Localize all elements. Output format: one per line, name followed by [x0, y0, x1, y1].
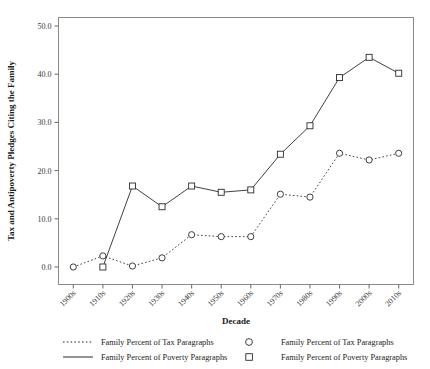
y-axis-title: Tax and Antipoverty Pledges Citing the F… — [6, 60, 16, 241]
data-point-square — [307, 123, 313, 129]
series-lines — [73, 57, 398, 267]
x-tick-label: 1930s — [147, 289, 167, 309]
y-tick-label: 10.0 — [38, 215, 52, 224]
data-point-square — [159, 204, 165, 210]
x-tick-label: 2010s — [383, 289, 403, 309]
data-point-square — [218, 189, 224, 195]
legend-entry: Family Percent of Tax Paragraphs — [63, 338, 214, 347]
legend-circle-marker-icon — [246, 339, 253, 346]
y-tick-label: 50.0 — [38, 22, 52, 31]
x-tick-label: 1940s — [176, 289, 196, 309]
data-point-square — [337, 75, 343, 81]
legend-entry: Family Percent of Tax Paragraphs — [246, 338, 394, 347]
legend-square-marker-icon — [246, 354, 253, 361]
data-point-circle — [129, 263, 135, 269]
data-point-circle — [218, 234, 224, 240]
legend-entry: Family Percent of Poverty Paragraphs — [246, 353, 407, 362]
data-point-circle — [396, 150, 402, 156]
legend-label: Family Percent of Tax Paragraphs — [281, 338, 394, 347]
x-tick-label: 1980s — [294, 289, 314, 309]
legend-label: Family Percent of Poverty Paragraphs — [281, 353, 407, 362]
series-line-circle — [73, 153, 398, 267]
series-markers — [70, 54, 402, 270]
data-point-circle — [159, 255, 165, 261]
data-point-circle — [366, 157, 372, 163]
legend-label: Family Percent of Tax Paragraphs — [101, 338, 214, 347]
data-point-circle — [189, 232, 195, 238]
data-point-circle — [336, 150, 342, 156]
x-tick-label: 1970s — [265, 289, 285, 309]
y-tick-label: 20.0 — [38, 167, 52, 176]
x-tick-label: 1950s — [206, 289, 226, 309]
data-point-square — [248, 187, 254, 193]
x-tick-label: 1960s — [235, 289, 255, 309]
x-axis-ticks: 1900s1910s1920s1930s1940s1950s1960s1970s… — [58, 285, 403, 309]
data-point-square — [277, 151, 283, 157]
chart-svg: 0.010.020.030.040.050.0 1900s1910s1920s1… — [0, 0, 430, 369]
plot-frame — [59, 18, 414, 285]
data-point-square — [100, 264, 106, 270]
data-point-circle — [100, 253, 106, 259]
x-tick-label: 1910s — [87, 289, 107, 309]
y-axis-ticks: 0.010.020.030.040.050.0 — [38, 22, 59, 272]
chart-figure: 0.010.020.030.040.050.0 1900s1910s1920s1… — [0, 0, 430, 369]
x-tick-label: 1900s — [58, 289, 78, 309]
data-point-circle — [277, 191, 283, 197]
legend-entry: Family Percent of Poverty Paragraphs — [63, 353, 227, 362]
data-point-square — [189, 183, 195, 189]
data-point-circle — [307, 194, 313, 200]
y-tick-label: 0.0 — [42, 263, 52, 272]
x-tick-label: 1990s — [324, 289, 344, 309]
legend-label: Family Percent of Poverty Paragraphs — [101, 353, 227, 362]
data-point-circle — [248, 234, 254, 240]
chart-legend: Family Percent of Tax ParagraphsFamily P… — [63, 338, 407, 362]
x-tick-label: 2000s — [354, 289, 374, 309]
data-point-circle — [70, 264, 76, 270]
data-point-square — [396, 70, 402, 76]
y-tick-label: 40.0 — [38, 70, 52, 79]
y-tick-label: 30.0 — [38, 118, 52, 127]
data-point-square — [129, 183, 135, 189]
x-axis-title: Decade — [222, 316, 250, 326]
x-tick-label: 1920s — [117, 289, 137, 309]
data-point-square — [366, 54, 372, 60]
